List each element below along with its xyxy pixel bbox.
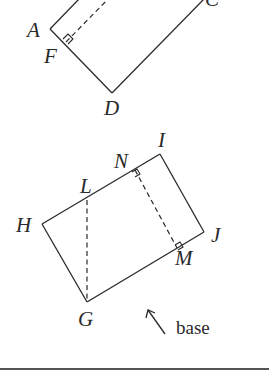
label-base: base — [176, 317, 210, 338]
height-line-n-m — [135, 170, 177, 248]
label-h: H — [15, 213, 33, 237]
edge-i-j — [160, 154, 204, 232]
label-j: J — [211, 223, 222, 247]
figure-1-rectangle: A F C D — [25, 0, 220, 120]
label-m: M — [174, 246, 194, 270]
height-line-f — [66, 0, 112, 42]
edge-a-b — [50, 0, 80, 29]
diagram-canvas: A F C D H L N I J M G base — [0, 0, 269, 390]
label-i: I — [157, 128, 166, 152]
label-d: D — [103, 96, 119, 120]
label-f: F — [43, 44, 57, 68]
edge-g-h — [42, 224, 87, 302]
label-n: N — [113, 149, 129, 173]
label-l: L — [79, 174, 92, 198]
edge-d-c — [112, 0, 205, 93]
edge-a-d — [50, 29, 112, 93]
label-a: A — [25, 18, 40, 42]
label-c: C — [205, 0, 220, 11]
edge-h-i — [42, 154, 160, 224]
figure-2-parallelogram: H L N I J M G base — [15, 128, 222, 338]
label-g: G — [78, 307, 93, 331]
right-angle-marker-f — [63, 34, 73, 44]
arrow-shaft-base — [148, 310, 165, 334]
